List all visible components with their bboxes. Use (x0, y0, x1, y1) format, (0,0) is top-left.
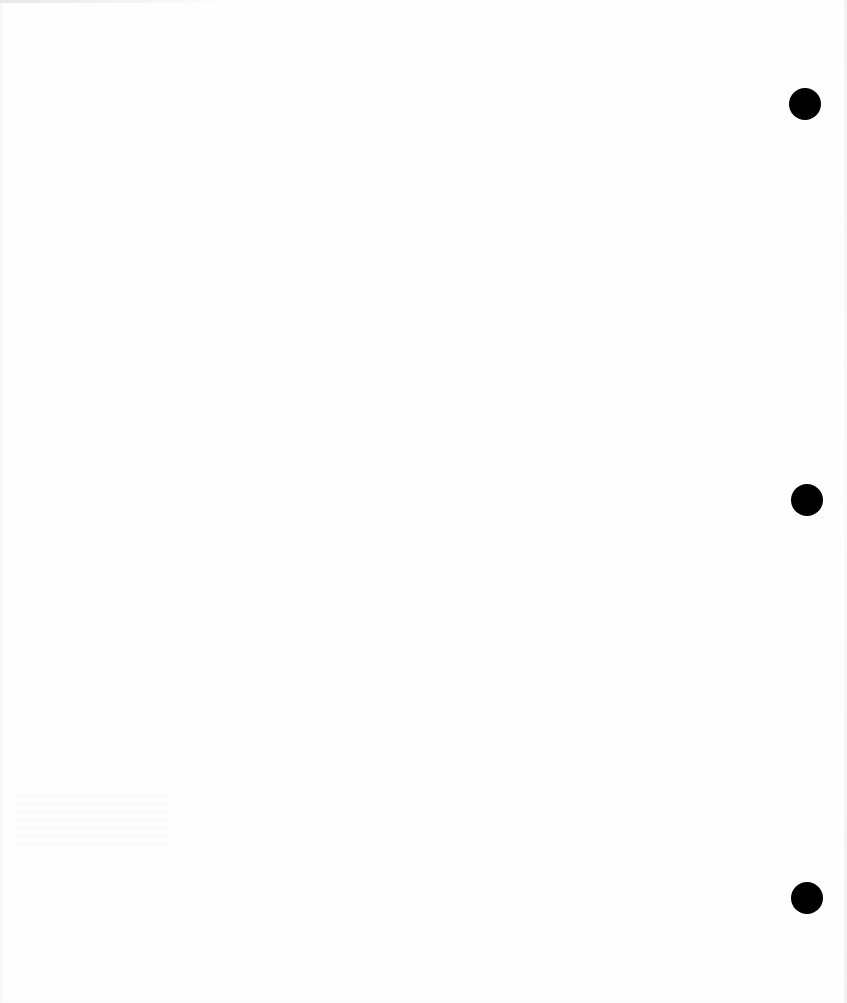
scanned-page (0, 0, 847, 1003)
punch-hole-top (789, 88, 821, 120)
punch-hole-middle (791, 484, 823, 516)
scan-edge-shadow (0, 0, 220, 3)
punch-hole-bottom (791, 882, 823, 914)
bleed-through-text (10, 795, 170, 850)
